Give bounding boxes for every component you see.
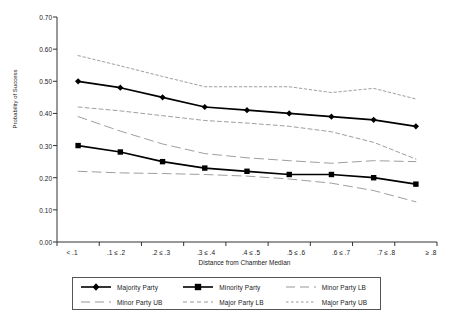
chart-figure: Probability of Success 0.70 0.60 0.50 0.… — [0, 0, 453, 321]
series-minority-party — [75, 143, 418, 187]
x-tick-marks — [57, 242, 437, 246]
legend: Majority Party Minority Party Minor Part… — [72, 277, 381, 310]
legend-item-major-party-lb: Major Party LB — [175, 294, 277, 310]
legend-swatch-minor-party-ub — [79, 296, 113, 308]
legend-label-minority-party: Minority Party — [219, 284, 260, 291]
legend-label-majority-party: Majority Party — [117, 284, 158, 291]
legend-label-major-party-lb: Major Party LB — [219, 299, 263, 306]
y-tick-marks — [53, 17, 57, 242]
legend-item-major-party-ub: Major Party UB — [278, 294, 380, 310]
legend-swatch-major-party-lb — [181, 296, 215, 308]
series-major-party-ub — [78, 56, 416, 99]
legend-item-majority-party: Majority Party — [73, 279, 175, 295]
series-majority-party — [75, 78, 419, 129]
legend-item-minority-party: Minority Party — [175, 279, 277, 295]
axis-lines — [57, 17, 437, 242]
legend-swatch-majority-party — [79, 281, 113, 293]
legend-item-minor-party-ub: Minor Party UB — [73, 294, 175, 310]
legend-item-minor-party-lb: Minor Party LB — [278, 279, 380, 295]
data-series-layer — [75, 56, 419, 202]
legend-label-minor-party-lb: Minor Party LB — [322, 284, 366, 291]
plot-area — [0, 0, 453, 321]
legend-label-major-party-ub: Major Party UB — [322, 299, 367, 306]
series-minor-party-lb — [78, 171, 416, 202]
legend-swatch-minority-party — [181, 281, 215, 293]
legend-label-minor-party-ub: Minor Party UB — [117, 299, 162, 306]
legend-swatch-minor-party-lb — [284, 281, 318, 293]
legend-swatch-major-party-ub — [284, 296, 318, 308]
series-major-party-lb — [78, 107, 416, 159]
